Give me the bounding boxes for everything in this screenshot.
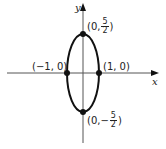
point-label-right: (1, 0) <box>103 62 130 72</box>
point-label-bottom-suffix: ) <box>118 116 122 126</box>
ellipse-diagram <box>0 0 166 149</box>
fraction-denominator: 2 <box>101 27 108 35</box>
y-axis-label: y <box>75 3 81 13</box>
point-label-top-prefix: (0, <box>87 22 100 32</box>
point-right <box>96 70 102 76</box>
point-label-left: (−1, 0) <box>32 62 67 72</box>
point-label-bottom-prefix: (0, <box>87 116 100 126</box>
fraction: 5 2 <box>110 112 117 129</box>
point-top <box>80 31 86 37</box>
point-label-bottom-sign: − <box>100 116 108 126</box>
point-label-top-suffix: ) <box>110 22 114 32</box>
point-label-top: (0, 5 2 ) <box>87 18 113 35</box>
point-label-bottom: (0, − 5 2 ) <box>87 112 122 129</box>
x-axis-label: x <box>152 77 158 87</box>
point-bottom <box>80 109 86 115</box>
fraction-denominator: 2 <box>110 121 117 129</box>
fraction: 5 2 <box>101 18 108 35</box>
